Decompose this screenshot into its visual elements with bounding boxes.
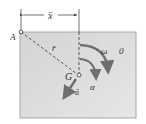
x-bar-label: x̄ (47, 10, 53, 21)
point-A-label: A (9, 32, 16, 42)
alpha-label: α (90, 82, 95, 92)
point-G-label: G (65, 71, 72, 82)
center-of-mass-G (77, 73, 81, 77)
rigid-body-diagram: x̄ A r̄ ω 0 α G ā (0, 0, 146, 124)
point-A (19, 30, 23, 34)
zero-label: 0 (119, 46, 124, 56)
dimension-x-bar: x̄ (21, 9, 79, 32)
omega-label: ω (101, 46, 107, 56)
a-bar-label: ā (75, 88, 79, 97)
